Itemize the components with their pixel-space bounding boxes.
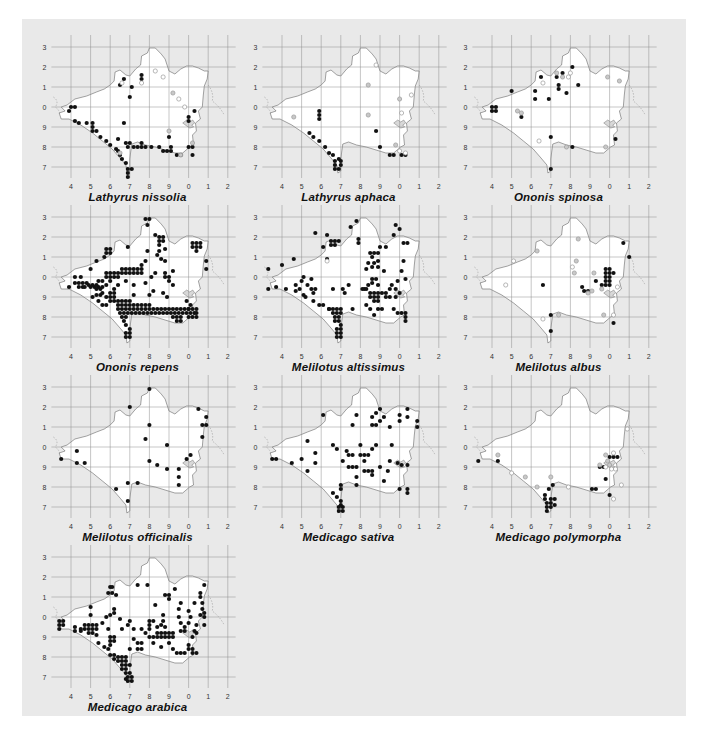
record-dot-recent <box>136 641 140 645</box>
record-dot-recent <box>89 613 93 617</box>
record-dot-recent <box>136 647 140 651</box>
record-dot-recent <box>132 283 136 287</box>
record-dot-older <box>555 71 559 75</box>
record-dot-recent <box>374 423 378 427</box>
record-dot-older <box>366 83 370 87</box>
record-dot-recent <box>380 291 384 295</box>
record-dot-recent <box>120 303 124 307</box>
record-dot-recent <box>108 653 112 657</box>
record-dot-recent <box>108 143 112 147</box>
record-dot-recent <box>108 643 112 647</box>
x-axis-label: 1 <box>627 523 631 530</box>
record-dot-recent <box>116 655 120 659</box>
record-dot-recent <box>305 469 309 473</box>
record-dot-recent <box>90 623 94 627</box>
record-dot-recent <box>151 289 155 293</box>
record-dot-recent <box>321 245 325 249</box>
record-dot-recent <box>136 583 140 587</box>
record-dot-recent <box>331 443 335 447</box>
x-axis-label: 5 <box>510 353 514 360</box>
record-dot-recent <box>331 287 335 291</box>
record-dot-oldest <box>611 497 615 501</box>
record-dot-recent <box>83 623 87 627</box>
record-dot-recent <box>126 623 130 627</box>
record-dot-recent <box>194 311 198 315</box>
record-dot-recent <box>126 481 130 485</box>
record-dot-recent <box>173 311 177 315</box>
species-name: Melilotus altissimus <box>246 361 451 373</box>
record-dot-recent <box>128 267 132 271</box>
record-dot-recent <box>309 287 313 291</box>
record-dot-older <box>167 129 171 133</box>
record-dot-recent <box>557 83 561 87</box>
record-dot-recent <box>399 463 403 467</box>
y-axis-label: 2 <box>464 404 468 411</box>
record-dot-recent <box>608 279 612 283</box>
record-dot-recent <box>75 461 79 465</box>
record-dot-recent <box>354 219 358 223</box>
x-axis-label: 9 <box>378 523 382 530</box>
record-dot-recent <box>102 255 106 259</box>
record-dot-recent <box>102 645 106 649</box>
record-dot-recent <box>339 503 343 507</box>
record-dot-recent <box>167 307 171 311</box>
record-dot-recent <box>313 451 317 455</box>
record-dot-recent <box>339 499 343 503</box>
record-dot-recent <box>194 241 198 245</box>
record-dot-recent <box>157 249 161 253</box>
y-axis-label: 1 <box>464 254 468 261</box>
record-dot-recent <box>112 607 116 611</box>
record-dot-recent <box>130 675 134 679</box>
record-dot-recent <box>311 135 315 139</box>
record-dot-recent <box>171 647 175 651</box>
record-dot-recent <box>401 259 405 263</box>
record-dot-oldest <box>604 465 608 469</box>
map-figure: 3210987456789012 <box>456 38 661 188</box>
x-axis-label: 1 <box>206 353 210 360</box>
y-axis-label: 7 <box>254 504 258 511</box>
y-axis-label: 1 <box>464 84 468 91</box>
record-dot-recent <box>378 145 382 149</box>
x-axis-label: 1 <box>206 523 210 530</box>
record-dot-recent <box>388 425 392 429</box>
record-dot-recent <box>139 307 143 311</box>
record-dot-recent <box>366 283 370 287</box>
record-dot-recent <box>341 509 345 513</box>
x-axis-label: 1 <box>417 523 421 530</box>
record-dot-oldest <box>325 259 329 263</box>
record-dot-recent <box>350 453 354 457</box>
record-dot-recent <box>557 87 561 91</box>
x-axis-label: 5 <box>89 523 93 530</box>
record-dot-recent <box>128 663 132 667</box>
record-dot-recent <box>163 259 167 263</box>
record-dot-recent <box>165 311 169 315</box>
record-dot-recent <box>151 635 155 639</box>
record-dot-recent <box>94 633 98 637</box>
y-axis-label: 2 <box>43 574 47 581</box>
record-dot-recent <box>364 287 368 291</box>
record-dot-recent <box>204 423 208 427</box>
y-axis-label: 7 <box>464 334 468 341</box>
record-dot-recent <box>159 623 163 627</box>
y-axis-label: 2 <box>43 234 47 241</box>
record-dot-recent <box>398 413 402 417</box>
x-axis-label: 7 <box>549 183 553 190</box>
y-axis-label: 0 <box>43 444 47 451</box>
record-dot-recent <box>317 117 321 121</box>
record-dot-recent <box>153 603 157 607</box>
record-dot-recent <box>155 631 159 635</box>
x-axis-label: 6 <box>319 523 323 530</box>
x-axis-label: 4 <box>280 523 284 530</box>
record-dot-recent <box>124 141 128 145</box>
record-dot-recent <box>128 307 132 311</box>
record-dot-recent <box>128 327 132 331</box>
record-dot-recent <box>120 315 124 319</box>
record-dot-recent <box>415 419 419 423</box>
record-dot-recent <box>476 459 480 463</box>
record-dot-recent <box>331 307 335 311</box>
record-dot-recent <box>392 307 396 311</box>
record-dot-recent <box>75 449 79 453</box>
record-dot-recent <box>415 425 419 429</box>
record-dot-recent <box>143 631 147 635</box>
record-dot-recent <box>372 261 376 265</box>
